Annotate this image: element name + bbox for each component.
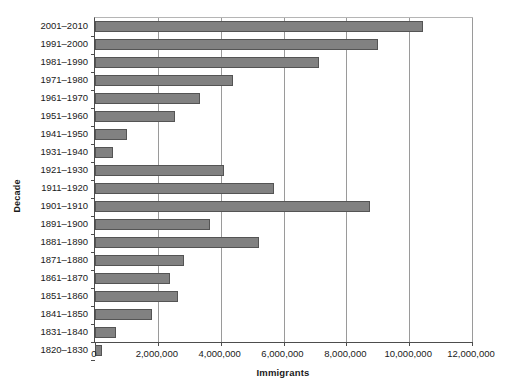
x-axis-tick	[472, 342, 473, 346]
bar[interactable]	[95, 147, 113, 158]
bar[interactable]	[95, 273, 170, 284]
y-axis-category-labels: 2001–20101991–20001981–19901971–19801961…	[22, 17, 88, 341]
bar[interactable]	[95, 93, 200, 104]
y-axis-category-label: 1991–2000	[40, 35, 88, 53]
y-axis-category-label: 1921–1930	[40, 161, 88, 179]
y-axis-category-label: 1911–1920	[41, 179, 88, 197]
bar-row[interactable]	[95, 306, 472, 324]
bar[interactable]	[95, 57, 319, 68]
y-axis-category-label: 1971–1980	[40, 71, 88, 89]
y-axis-category-label: 1841–1850	[40, 305, 88, 323]
bar[interactable]	[95, 291, 178, 302]
bar[interactable]	[95, 39, 378, 50]
y-axis-category-label: 1931–1940	[40, 143, 88, 161]
gridline	[472, 18, 473, 342]
y-axis-category-label: 1961–1970	[40, 89, 88, 107]
y-axis-title-label: Decade	[12, 179, 22, 212]
bar-row[interactable]	[95, 90, 472, 108]
x-axis-title: Immigrants	[94, 367, 472, 378]
bar-row[interactable]	[95, 18, 472, 36]
plot-area	[94, 17, 473, 343]
y-axis-category-label: 1981–1990	[40, 53, 88, 71]
bar[interactable]	[95, 21, 423, 32]
bar-row[interactable]	[95, 108, 472, 126]
bar-row[interactable]	[95, 252, 472, 270]
bar[interactable]	[95, 309, 152, 320]
y-axis-category-label: 1861–1870	[40, 269, 88, 287]
bar-row[interactable]	[95, 234, 472, 252]
x-axis-tick-labels: 02,000,0004,000,0006,000,0008,000,00010,…	[0, 348, 505, 362]
bar-row[interactable]	[95, 288, 472, 306]
bar[interactable]	[95, 165, 224, 176]
bar-row[interactable]	[95, 180, 472, 198]
y-axis-category-label: 1871–1880	[40, 251, 88, 269]
y-axis-category-label: 1941–1950	[40, 125, 88, 143]
bar[interactable]	[95, 327, 116, 338]
bar-row[interactable]	[95, 198, 472, 216]
y-axis-category-label: 1831–1840	[40, 323, 88, 341]
bar[interactable]	[95, 255, 184, 266]
x-axis-tick-label: 6,000,000	[261, 348, 303, 359]
y-axis-category-label: 2001–2010	[40, 17, 88, 35]
bar-row[interactable]	[95, 162, 472, 180]
bar[interactable]	[95, 129, 127, 140]
bar[interactable]	[95, 183, 274, 194]
bar[interactable]	[95, 201, 370, 212]
bar-row[interactable]	[95, 36, 472, 54]
y-axis-category-label: 1881–1890	[40, 233, 88, 251]
x-axis-tick-label: 4,000,000	[199, 348, 241, 359]
bar[interactable]	[95, 111, 175, 122]
x-axis-tick-label: 10,000,000	[384, 348, 432, 359]
bar-row[interactable]	[95, 72, 472, 90]
bar[interactable]	[95, 219, 210, 230]
bar[interactable]	[95, 237, 259, 248]
bar-row[interactable]	[95, 270, 472, 288]
bar-row[interactable]	[95, 144, 472, 162]
x-axis-tick-label: 0	[91, 348, 96, 359]
y-axis-category-label: 1901–1910	[40, 197, 88, 215]
bar-row[interactable]	[95, 216, 472, 234]
bar-row[interactable]	[95, 126, 472, 144]
bar[interactable]	[95, 75, 233, 86]
immigrants-by-decade-bar-chart: Decade 2001–20101991–20001981–19901971–1…	[0, 0, 505, 392]
y-axis-category-label: 1951–1960	[40, 107, 88, 125]
y-axis-category-label: 1891–1900	[40, 215, 88, 233]
bar-row[interactable]	[95, 54, 472, 72]
x-axis-tick-label: 8,000,000	[324, 348, 366, 359]
x-axis-tick-label: 2,000,000	[136, 348, 178, 359]
x-axis-tick-label: 12,000,000	[447, 348, 495, 359]
bar-row[interactable]	[95, 324, 472, 342]
y-axis-category-label: 1851–1860	[40, 287, 88, 305]
